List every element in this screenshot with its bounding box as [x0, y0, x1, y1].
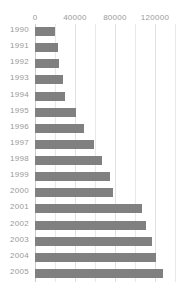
- bar-row: [35, 24, 182, 40]
- y-axis-label: 1993: [0, 73, 29, 83]
- x-axis-tick-label: 0: [33, 13, 38, 23]
- bar: [35, 269, 163, 278]
- y-axis-category-labels: 1990199119921993199419951996199719981999…: [0, 24, 33, 282]
- bar-row: [35, 137, 182, 153]
- bar-row: [35, 266, 182, 282]
- y-axis-label: 1997: [0, 138, 29, 148]
- y-axis-label: 2005: [0, 267, 29, 277]
- bar: [35, 221, 146, 230]
- bar: [35, 75, 63, 84]
- bar-chart: 04000080000120000 1990199119921993199419…: [0, 0, 182, 288]
- y-axis-label: 2001: [0, 202, 29, 212]
- bar-row: [35, 169, 182, 185]
- bar-row: [35, 250, 182, 266]
- y-axis-label: 1991: [0, 41, 29, 51]
- bar-row: [35, 40, 182, 56]
- bar-row: [35, 218, 182, 234]
- y-axis-label: 1990: [0, 25, 29, 35]
- bar-row: [35, 234, 182, 250]
- bar: [35, 108, 76, 117]
- bar-row: [35, 56, 182, 72]
- plot-area: [35, 24, 182, 282]
- bar-row: [35, 89, 182, 105]
- x-axis-tick-labels: 04000080000120000: [35, 13, 182, 24]
- bar: [35, 27, 55, 36]
- bar-row: [35, 121, 182, 137]
- bar: [35, 188, 113, 197]
- bar: [35, 253, 156, 262]
- y-axis-label: 1995: [0, 106, 29, 116]
- bar-row: [35, 185, 182, 201]
- x-axis-tick-label: 120000: [141, 13, 170, 23]
- bar: [35, 237, 152, 246]
- bar: [35, 124, 84, 133]
- y-axis-label: 2000: [0, 186, 29, 196]
- y-axis-label: 2002: [0, 219, 29, 229]
- y-axis-label: 2004: [0, 251, 29, 261]
- bar-row: [35, 201, 182, 217]
- bar: [35, 43, 58, 52]
- bar-row: [35, 153, 182, 169]
- bar: [35, 204, 142, 213]
- bar: [35, 156, 102, 165]
- x-axis-tick-label: 40000: [63, 13, 87, 23]
- bar-row: [35, 72, 182, 88]
- y-axis-label: 1992: [0, 57, 29, 67]
- bar: [35, 140, 94, 149]
- y-axis-label: 1999: [0, 170, 29, 180]
- y-axis-label: 2003: [0, 235, 29, 245]
- bar-series: [35, 24, 182, 282]
- y-axis-label: 1996: [0, 122, 29, 132]
- bar-row: [35, 105, 182, 121]
- bar: [35, 172, 110, 181]
- bar: [35, 59, 59, 68]
- y-axis-label: 1998: [0, 154, 29, 164]
- x-axis-tick-label: 80000: [103, 13, 127, 23]
- bar: [35, 92, 65, 101]
- y-axis-label: 1994: [0, 90, 29, 100]
